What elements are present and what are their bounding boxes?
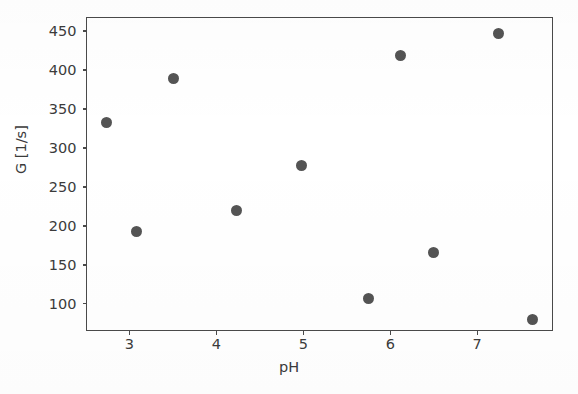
y-axis-tick: 450 [83, 30, 88, 31]
y-axis-tick-label: 300 [49, 141, 77, 156]
y-axis-tick: 350 [83, 108, 88, 109]
x-axis-title: pH [0, 360, 578, 375]
y-axis-tick: 100 [83, 303, 88, 304]
data-points-layer [87, 18, 552, 330]
x-axis-tick-label: 5 [299, 337, 308, 352]
x-axis-tick-label: 4 [212, 337, 221, 352]
y-axis-tick-label: 100 [49, 297, 77, 312]
y-axis-tick-label: 350 [49, 102, 77, 117]
y-axis-tick-label: 450 [49, 24, 77, 39]
data-point [168, 73, 179, 84]
data-point [231, 205, 242, 216]
y-axis-tick-label: 200 [49, 219, 77, 234]
y-axis-tick: 300 [83, 147, 88, 148]
data-point [363, 293, 374, 304]
data-point [428, 247, 439, 258]
scatter-plot-figure: 100150200250300350400450 34567 G [1/s] p… [0, 0, 578, 394]
y-axis-tick-label: 400 [49, 63, 77, 78]
data-point [101, 117, 112, 128]
y-axis-tick-label: 150 [49, 258, 77, 273]
x-axis-tick-label: 7 [473, 337, 482, 352]
x-axis-tick-label: 6 [386, 337, 395, 352]
x-axis-tick: 5 [303, 330, 304, 335]
plot-area: 100150200250300350400450 34567 [86, 17, 553, 331]
x-axis-tick: 7 [477, 330, 478, 335]
x-axis-tick: 3 [129, 330, 130, 335]
x-axis-tick: 4 [216, 330, 217, 335]
y-axis-tick: 400 [83, 69, 88, 70]
y-axis-tick: 200 [83, 225, 88, 226]
x-axis-tick: 6 [390, 330, 391, 335]
data-point [395, 50, 406, 61]
data-point [493, 28, 504, 39]
y-axis-tick-label: 250 [49, 180, 77, 195]
x-axis-tick-label: 3 [125, 337, 134, 352]
y-axis-title: G [1/s] [14, 125, 29, 174]
data-point [131, 226, 142, 237]
data-point [527, 314, 538, 325]
data-point [296, 160, 307, 171]
y-axis-tick: 150 [83, 264, 88, 265]
y-axis-tick: 250 [83, 186, 88, 187]
